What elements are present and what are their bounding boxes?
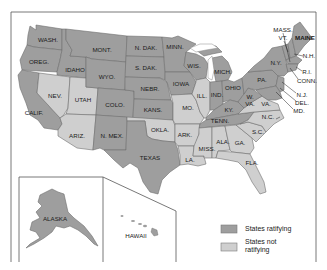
label-wva-1: W. xyxy=(246,93,253,100)
label-sc: S.C. xyxy=(252,128,264,135)
legend-label-not-ratifying-2: ratifying xyxy=(245,246,270,254)
label-nj: N.J. xyxy=(296,91,307,98)
label-tenn: TENN. xyxy=(211,117,230,124)
leader-del xyxy=(280,88,296,101)
label-mass: MASS. xyxy=(273,26,293,33)
legend-label-not-ratifying-1: States not xyxy=(245,238,277,245)
label-fla: FLA. xyxy=(245,159,258,166)
label-ny: N.Y. xyxy=(270,59,282,66)
label-wis: WIS. xyxy=(187,62,201,69)
label-alaska: ALASKA xyxy=(43,215,68,222)
label-minn: MINN. xyxy=(166,43,184,50)
label-va: VA. xyxy=(261,100,271,107)
label-maine: MAINE xyxy=(295,34,315,41)
label-del: DEL. xyxy=(295,99,309,106)
label-wash: WASH. xyxy=(38,36,58,43)
label-md: MD. xyxy=(293,107,305,114)
us-map: WASH. OREG. CALIF. IDAHO NEV. UTAH ARIZ.… xyxy=(0,0,327,270)
label-mich: MICH. xyxy=(214,68,232,75)
hawaii-inset-frame xyxy=(103,177,176,262)
label-wva-2: VA. xyxy=(245,100,255,107)
label-nebr: NEBR. xyxy=(141,85,160,92)
label-ga: GA. xyxy=(235,139,246,146)
label-ohio: OHIO xyxy=(225,84,241,91)
label-texas: TEXAS xyxy=(140,154,160,161)
label-ala: ALA. xyxy=(216,138,230,145)
hawaii-island-big xyxy=(151,228,158,236)
label-ndak: N. DAK. xyxy=(135,44,158,51)
label-conn: CONN. xyxy=(297,77,317,84)
label-nev: NEV. xyxy=(48,92,62,99)
hawaii-island-oahu xyxy=(131,220,135,222)
label-wyo: WYO. xyxy=(99,73,116,80)
legend-swatch-not-ratifying xyxy=(221,243,237,251)
label-ky: KY. xyxy=(224,106,233,113)
label-mont: MONT. xyxy=(92,46,112,53)
label-ill: ILL. xyxy=(197,92,208,99)
label-vt: VT. xyxy=(279,34,288,41)
label-nmex: N. MEX. xyxy=(100,132,123,139)
label-nh: N.H. xyxy=(303,52,316,59)
label-mo: MO. xyxy=(182,104,194,111)
legend-swatch-ratifying xyxy=(221,225,237,233)
state-florida xyxy=(216,151,266,194)
label-idaho: IDAHO xyxy=(65,66,85,73)
hawaii-island-molokai xyxy=(138,223,142,225)
label-okla: OKLA. xyxy=(151,126,170,133)
hawaii-island-maui xyxy=(143,225,147,227)
label-ind: IND. xyxy=(211,91,224,98)
label-ark: ARK. xyxy=(178,131,193,138)
label-hawaii: HAWAII xyxy=(125,232,147,239)
label-ri: R.I. xyxy=(302,68,312,75)
label-la: LA. xyxy=(185,156,195,163)
label-oreg: OREG. xyxy=(29,58,49,65)
legend-label-ratifying: States ratifying xyxy=(245,225,291,233)
leader-ri xyxy=(296,67,302,71)
label-sdak: S. DAK. xyxy=(135,64,157,71)
label-iowa: IOWA xyxy=(173,80,190,87)
label-utah: UTAH xyxy=(75,96,91,103)
label-miss: MISS. xyxy=(199,145,216,152)
hawaii-island-kauai xyxy=(121,215,124,217)
label-pa: PA. xyxy=(257,76,267,83)
label-ariz: ARIZ. xyxy=(69,132,85,139)
label-nc: N.C. xyxy=(262,113,275,120)
label-calif: CALIF. xyxy=(25,109,44,116)
label-colo: COLO. xyxy=(105,101,125,108)
label-kans: KANS. xyxy=(144,106,163,113)
